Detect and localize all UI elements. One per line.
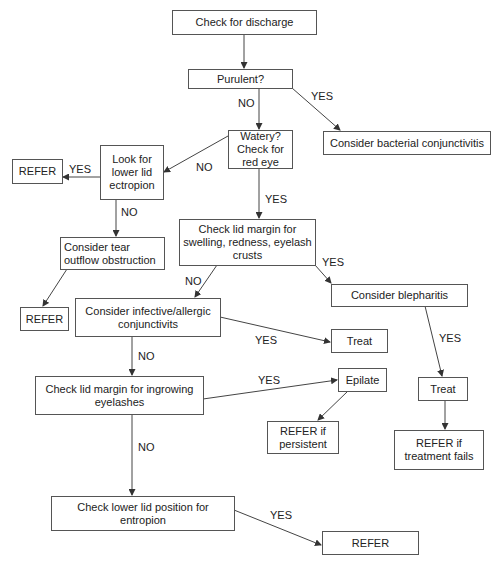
label-no-ectropion-tear: NO [121, 206, 138, 218]
label-yes-lidmargin-blepharitis: YES [322, 256, 344, 268]
node-refer-tear: REFER [20, 307, 69, 331]
label-yes-blepharitis-treat: YES [439, 332, 461, 344]
node-blepharitis: Consider blepharitis [331, 284, 468, 307]
node-watery: Watery? Check for red eye [228, 130, 293, 169]
node-treat-blepharitis: Treat [418, 377, 468, 401]
label-yes-watery-lidmargin: YES [265, 193, 287, 205]
label-yes-infective-treat: YES [255, 334, 277, 346]
node-refer-entropion: REFER [322, 531, 419, 555]
edge-epilate-referpersistent [318, 391, 348, 420]
node-refer-persistent: REFER if persistent [267, 421, 339, 454]
node-refer-ectropion: REFER [12, 159, 63, 184]
node-ingrowing: Check lid margin for ingrowing eyelashes [35, 376, 204, 415]
node-refer-treatment-fails: REFER if treatment fails [394, 430, 484, 470]
label-yes-entropion-refer: YES [270, 509, 292, 521]
node-infective: Consider infective/allergic conjunctivit… [75, 298, 221, 337]
label-yes-ectropion-refer: YES [69, 163, 91, 175]
node-tear-outflow: Consider tear outflow obstruction [60, 237, 165, 270]
label-no-ingrowing-entropion: NO [138, 441, 155, 453]
node-lid-margin-swelling: Check lid margin for swelling, redness, … [179, 219, 316, 266]
node-check-discharge: Check for discharge [172, 10, 317, 35]
label-yes-purulent-bacterial: YES [311, 90, 333, 102]
label-no-purulent-watery: NO [238, 97, 255, 109]
node-ectropion: Look for lower lid ectropion [100, 145, 164, 200]
node-purulent: Purulent? [188, 69, 293, 89]
node-epilate: Epilate [338, 368, 387, 392]
node-entropion: Check lower lid position for entropion [51, 496, 235, 531]
label-yes-ingrowing-epilate: YES [258, 374, 280, 386]
node-treat-infective: Treat [331, 329, 388, 353]
flowchart-canvas: Check for discharge Purulent? Watery? Ch… [0, 0, 500, 562]
label-no-lidmargin-infective: NO [185, 275, 202, 287]
label-no-watery-ectropion: NO [196, 161, 213, 173]
label-no-infective-ingrowing: NO [138, 350, 155, 362]
edge-tear-refer [43, 269, 67, 306]
node-bacterial: Consider bacterial conjunctivitis [323, 131, 491, 155]
